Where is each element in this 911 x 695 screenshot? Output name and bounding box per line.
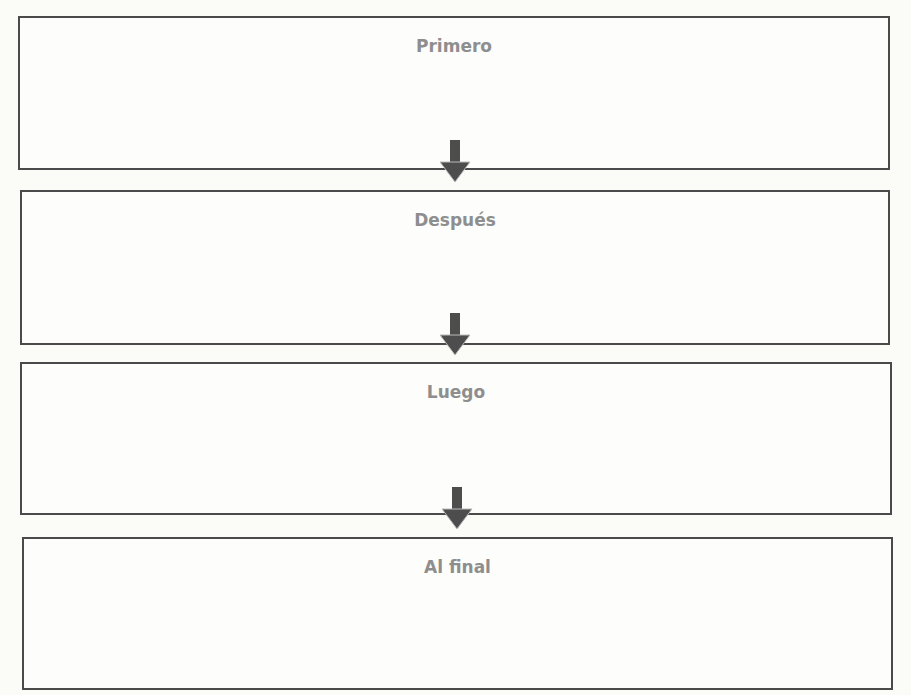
step-box-al-final[interactable]: Al final xyxy=(22,537,893,690)
step-label: Después xyxy=(22,210,888,230)
down-arrow-icon xyxy=(438,313,472,357)
step-label: Al final xyxy=(24,557,891,577)
down-arrow-icon xyxy=(438,140,472,184)
down-arrow-icon xyxy=(440,487,474,531)
step-label: Luego xyxy=(22,382,890,402)
step-label: Primero xyxy=(20,36,888,56)
